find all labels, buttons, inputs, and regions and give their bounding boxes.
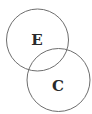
set-e-label: E <box>31 31 42 49</box>
set-c-label: C <box>52 77 64 95</box>
venn-diagram: E C <box>0 0 92 114</box>
